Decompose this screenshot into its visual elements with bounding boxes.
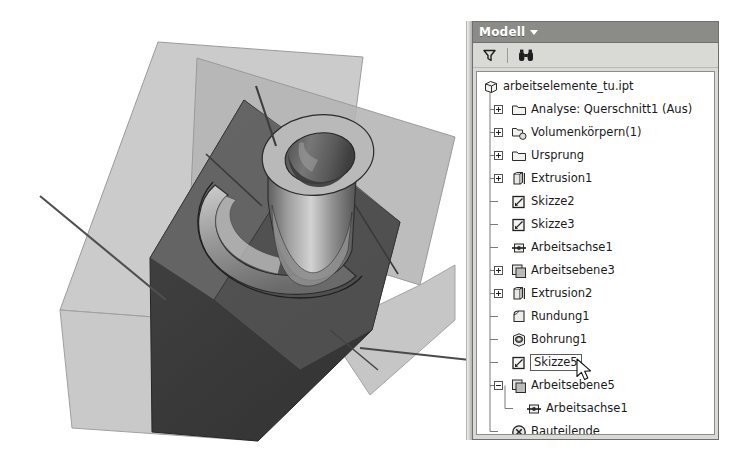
part-box-icon xyxy=(483,79,499,95)
tree-item-skizze2[interactable]: Skizze2 xyxy=(477,190,714,213)
hole-icon-glyph xyxy=(511,332,527,348)
work-axis-icon xyxy=(511,240,527,256)
panel-title: Modell xyxy=(479,25,525,39)
tree-item-skizze3[interactable]: Skizze3 xyxy=(477,213,714,236)
work-plane-icon-glyph xyxy=(511,378,527,394)
work-plane-icon-glyph xyxy=(511,263,527,279)
tree-item-label: Arbeitsebene3 xyxy=(531,263,615,278)
part-box-icon-glyph xyxy=(483,79,499,95)
end-of-part-icon-glyph xyxy=(511,424,527,436)
fillet-icon-glyph xyxy=(511,309,527,325)
tree-item-arbeitsachse1[interactable]: Arbeitsachse1 xyxy=(477,397,714,420)
sketch-icon-glyph xyxy=(511,355,527,371)
tree-item-label: arbeitselemente_tu.ipt xyxy=(503,79,634,94)
tree-item-extrusion2[interactable]: Extrusion2 xyxy=(477,282,714,305)
tree-item-label: Arbeitsachse1 xyxy=(546,401,628,416)
tree-item-arbeitselemente-tu-ipt[interactable]: arbeitselemente_tu.ipt xyxy=(477,75,714,98)
tree-item-label: Arbeitsachse1 xyxy=(531,240,613,255)
work-plane-icon xyxy=(511,378,527,394)
model-tree[interactable]: arbeitselemente_tu.iptAnalyse: Querschni… xyxy=(476,71,715,435)
end-of-part-icon xyxy=(511,424,527,436)
tree-item-bauteilende[interactable]: Bauteilende xyxy=(477,420,714,435)
toolbar-separator xyxy=(507,48,508,63)
folder-icon xyxy=(511,148,527,164)
tree-item-label: Rundung1 xyxy=(531,309,590,324)
expand-icon[interactable] xyxy=(494,128,503,137)
tree-item-extrusion1[interactable]: Extrusion1 xyxy=(477,167,714,190)
tree-item-rundung1[interactable]: Rundung1 xyxy=(477,305,714,328)
folder-icon-glyph xyxy=(511,148,527,164)
model-browser-panel: Modell arbeitselemente_tu.iptAnalyse: Qu… xyxy=(472,21,719,440)
extrude-icon-glyph xyxy=(511,171,527,187)
extrude-icon-glyph xyxy=(511,286,527,302)
solid-bodies-folder-icon-glyph xyxy=(511,125,527,141)
fillet-icon xyxy=(511,309,527,325)
tree-item-label: Bauteilende xyxy=(531,424,600,435)
folder-icon-glyph xyxy=(511,102,527,118)
browser-toolbar xyxy=(473,43,718,68)
tree-item-label: Skizze2 xyxy=(531,194,575,209)
tree-item-label: Analyse: Querschnitt1 (Aus) xyxy=(531,102,692,117)
folder-icon xyxy=(511,102,527,118)
find-icon[interactable] xyxy=(516,46,535,65)
binoculars-glyph xyxy=(518,48,534,63)
sketch-icon-glyph xyxy=(511,194,527,210)
tree-item-analyse-querschnitt1-aus[interactable]: Analyse: Querschnitt1 (Aus) xyxy=(477,98,714,121)
tree-item-label: Skizze5 xyxy=(530,354,582,371)
extrude-icon xyxy=(511,286,527,302)
tree-item-label: Volumenkörpern(1) xyxy=(531,125,642,140)
tree-item-label: Bohrung1 xyxy=(531,332,587,347)
model-viewport[interactable] xyxy=(0,0,472,462)
tree-item-skizze5[interactable]: Skizze5 xyxy=(477,351,714,374)
tree-item-label: Ursprung xyxy=(531,148,584,163)
work-plane-icon xyxy=(511,263,527,279)
sketch-icon xyxy=(511,194,527,210)
tree-item-label: Extrusion1 xyxy=(531,171,592,186)
expand-icon[interactable] xyxy=(494,151,503,160)
hole-icon xyxy=(511,332,527,348)
extrude-icon xyxy=(511,171,527,187)
funnel-glyph xyxy=(482,48,497,63)
work-axis-icon xyxy=(526,401,542,417)
work-axis-icon-glyph xyxy=(526,401,542,417)
tree-item-label: Arbeitsebene5 xyxy=(531,378,615,393)
model-3d-graphics xyxy=(0,0,472,462)
work-axis-icon-glyph xyxy=(511,240,527,256)
collapse-icon[interactable] xyxy=(494,381,503,390)
expand-icon[interactable] xyxy=(494,289,503,298)
browser-titlebar[interactable]: Modell xyxy=(473,22,718,43)
sketch-icon xyxy=(511,217,527,233)
tree-item-arbeitsebene3[interactable]: Arbeitsebene3 xyxy=(477,259,714,282)
tree-item-bohrung1[interactable]: Bohrung1 xyxy=(477,328,714,351)
tree-item-ursprung[interactable]: Ursprung xyxy=(477,144,714,167)
tree-item-arbeitsebene5[interactable]: Arbeitsebene5 xyxy=(477,374,714,397)
filter-icon[interactable] xyxy=(480,46,499,65)
sketch-icon-glyph xyxy=(511,217,527,233)
solid-bodies-folder-icon xyxy=(511,125,527,141)
expand-icon[interactable] xyxy=(494,174,503,183)
tree-item-arbeitsachse1[interactable]: Arbeitsachse1 xyxy=(477,236,714,259)
chevron-down-icon[interactable] xyxy=(530,30,538,35)
tree-item-label: Extrusion2 xyxy=(531,286,592,301)
expand-icon[interactable] xyxy=(494,105,503,114)
sketch-icon xyxy=(511,355,527,371)
tree-item-volumenk-rpern-1[interactable]: Volumenkörpern(1) xyxy=(477,121,714,144)
tree-item-label: Skizze3 xyxy=(531,217,575,232)
expand-icon[interactable] xyxy=(494,266,503,275)
